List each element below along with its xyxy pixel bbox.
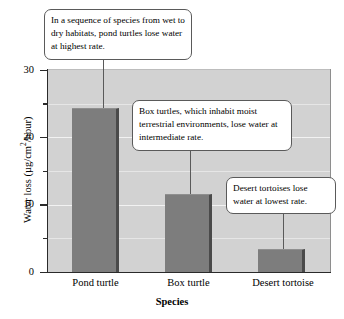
callout-box-turtle: Box turtles, which inhabit moist terrest… xyxy=(132,100,292,151)
leader-line-box-turtle xyxy=(190,151,191,194)
y-axis-line xyxy=(47,69,48,273)
y-tick-mark-0 xyxy=(40,272,47,273)
bar-desert-tortoise xyxy=(258,249,305,272)
water-loss-bar-chart-figure: 30 20 10 0 Water loss (µg/cm2/hour) Pond… xyxy=(0,0,344,319)
y-axis-title-tail: /hour) xyxy=(22,117,33,143)
leader-line-desert-tortoise xyxy=(283,214,284,249)
y-tick-mark-15 xyxy=(43,171,47,172)
y-tick-mark-25 xyxy=(43,103,47,104)
bar-box-turtle xyxy=(165,194,212,272)
y-tick-mark-20 xyxy=(40,137,47,138)
y-axis-title-exponent: 2 xyxy=(19,142,28,146)
x-tick-label-desert-tortoise: Desert tortoise xyxy=(240,277,326,289)
callout-pond-turtle: In a sequence of species from wet to dry… xyxy=(44,9,192,60)
x-axis-title: Species xyxy=(0,296,344,307)
plot-right-border xyxy=(330,69,331,273)
x-tick-label-box-turtle: Box turtle xyxy=(148,277,229,289)
y-tick-mark-10 xyxy=(40,204,47,205)
callout-desert-tortoise: Desert tortoises lose water at lowest ra… xyxy=(226,177,336,214)
leader-line-pond-turtle xyxy=(103,60,104,108)
y-axis-title: Water loss (µg/cm2/hour) xyxy=(19,70,33,270)
bar-pond-turtle xyxy=(72,108,119,272)
plot-top-border xyxy=(48,69,330,70)
y-axis-title-main: Water loss (µg/cm xyxy=(22,146,33,223)
x-tick-label-pond-turtle: Pond turtle xyxy=(55,277,136,289)
x-axis-line xyxy=(47,272,331,273)
y-tick-mark-30 xyxy=(40,70,47,71)
y-tick-mark-5 xyxy=(43,238,47,239)
